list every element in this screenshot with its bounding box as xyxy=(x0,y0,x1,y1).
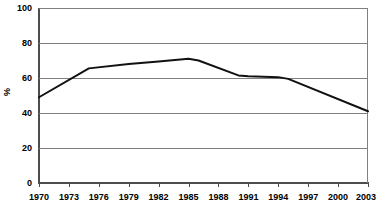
x-tick-label: 1970 xyxy=(29,192,49,202)
y-tick-label: 0 xyxy=(8,179,32,188)
x-tick-label: 1991 xyxy=(238,192,258,202)
x-tick-label: 1997 xyxy=(298,192,318,202)
x-tick-label: 2000 xyxy=(328,192,348,202)
x-tick-label: 1985 xyxy=(178,192,198,202)
x-tick-label: 1979 xyxy=(119,192,139,202)
x-tick-mark xyxy=(278,183,279,187)
y-tick-label: 80 xyxy=(8,39,32,48)
line-chart: % 100 80 60 40 20 0 1970 1973 1976 1979 … xyxy=(0,0,386,206)
x-tick-mark xyxy=(99,183,100,187)
y-tick-label: 20 xyxy=(8,144,32,153)
x-tick-mark xyxy=(218,183,219,187)
x-tick-mark xyxy=(39,183,40,187)
x-tick-label: 1982 xyxy=(149,192,169,202)
x-tick-mark xyxy=(368,183,369,187)
x-tick-mark xyxy=(189,183,190,187)
y-tick-label: 100 xyxy=(8,4,32,13)
x-tick-label: 1994 xyxy=(268,192,288,202)
plot-area: 1970 1973 1976 1979 1982 1985 1988 1991 … xyxy=(39,8,368,183)
x-tick-mark xyxy=(248,183,249,187)
x-tick-mark xyxy=(129,183,130,187)
x-tick-label: 1973 xyxy=(59,192,79,202)
x-tick-label: 2003 xyxy=(356,192,376,202)
y-axis-tick-labels: 100 80 60 40 20 0 xyxy=(8,0,32,206)
x-tick-label: 1988 xyxy=(208,192,228,202)
data-line-svg xyxy=(39,8,368,183)
x-tick-mark xyxy=(159,183,160,187)
data-series-line xyxy=(39,59,368,112)
x-tick-mark xyxy=(308,183,309,187)
x-tick-mark xyxy=(338,183,339,187)
x-tick-label: 1976 xyxy=(89,192,109,202)
y-tick-label: 40 xyxy=(8,109,32,118)
x-tick-mark xyxy=(69,183,70,187)
y-tick-label: 60 xyxy=(8,74,32,83)
